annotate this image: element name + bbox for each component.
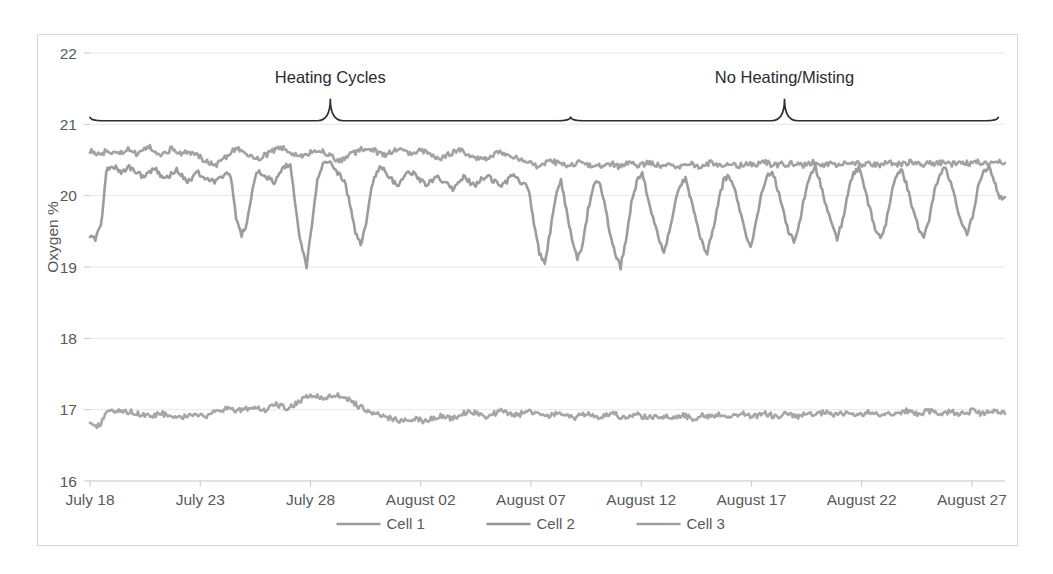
x-tick-label-0: July 18 <box>65 491 114 508</box>
x-tick-label-2: July 28 <box>286 491 335 508</box>
y-tick-label-20: 20 <box>60 187 78 204</box>
y-axis-ticks: 16171819202122 <box>60 45 78 490</box>
legend-label-cell-1[interactable]: Cell 1 <box>387 515 425 532</box>
x-tick-label-6: August 17 <box>717 491 787 508</box>
data-series-group <box>90 145 1005 428</box>
y-tick-label-16: 16 <box>60 473 77 490</box>
x-tick-label-7: August 22 <box>827 491 897 508</box>
y-tick-label-22: 22 <box>60 45 77 62</box>
x-tick-label-8: August 27 <box>937 491 1007 508</box>
legend-label-cell-2[interactable]: Cell 2 <box>537 515 575 532</box>
y-tick-label-21: 21 <box>60 116 77 133</box>
brace-no-heating-misting <box>571 99 999 121</box>
chart-plot-area: 16171819202122 July 18July 23July 28Augu… <box>0 0 1053 574</box>
series-line-cell-1 <box>90 145 1005 169</box>
annotation-label-no-heating-misting: No Heating/Misting <box>715 68 854 86</box>
annotation-label-heating-cycles: Heating Cycles <box>275 68 386 86</box>
y-tick-label-19: 19 <box>60 259 77 276</box>
y-tick-label-17: 17 <box>60 401 77 418</box>
y-tick-label-18: 18 <box>60 330 77 347</box>
series-line-cell-3 <box>90 393 1005 427</box>
x-tick-label-5: August 12 <box>606 491 676 508</box>
annotation-group: Heating CyclesNo Heating/Misting <box>90 68 998 121</box>
x-tick-label-3: August 02 <box>386 491 456 508</box>
series-line-cell-2 <box>90 162 1005 270</box>
chart-legend: Cell 1Cell 2Cell 3 <box>337 515 725 532</box>
x-tick-label-1: July 23 <box>176 491 225 508</box>
legend-label-cell-3[interactable]: Cell 3 <box>687 515 725 532</box>
x-axis-ticks: July 18July 23July 28August 02August 07A… <box>65 481 1006 508</box>
oxygen-percent-chart: 16171819202122 July 18July 23July 28Augu… <box>0 0 1053 574</box>
brace-heating-cycles <box>90 99 571 121</box>
y-axis-title: Oxygen % <box>44 201 61 273</box>
x-tick-label-4: August 07 <box>496 491 566 508</box>
y-axis-label: Oxygen % <box>44 201 61 273</box>
